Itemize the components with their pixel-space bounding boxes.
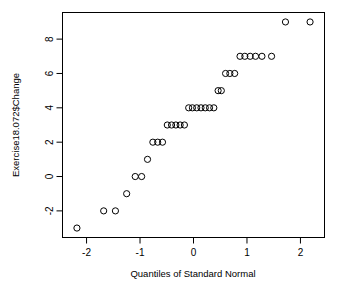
y-axis-title: Exercise18.072$Change (10, 73, 21, 177)
y-tick-label: -2 (44, 206, 55, 215)
y-tick-label: 4 (44, 105, 55, 111)
y-tick-label: 6 (44, 70, 55, 76)
x-tick-label: 1 (244, 247, 250, 258)
chart-canvas: -202468 -2-1012 Quantiles of Standard No… (0, 0, 341, 293)
figure-background (0, 0, 341, 293)
x-tick-label: -1 (136, 247, 145, 258)
x-tick-label: 2 (298, 247, 304, 258)
qq-plot-figure: -202468 -2-1012 Quantiles of Standard No… (0, 0, 341, 293)
x-tick-label: 0 (191, 247, 197, 258)
y-tick-label: 0 (44, 173, 55, 179)
y-tick-label: 2 (44, 139, 55, 145)
x-axis-title: Quantiles of Standard Normal (130, 268, 255, 279)
x-tick-label: -2 (82, 247, 91, 258)
y-tick-label: 8 (44, 36, 55, 42)
